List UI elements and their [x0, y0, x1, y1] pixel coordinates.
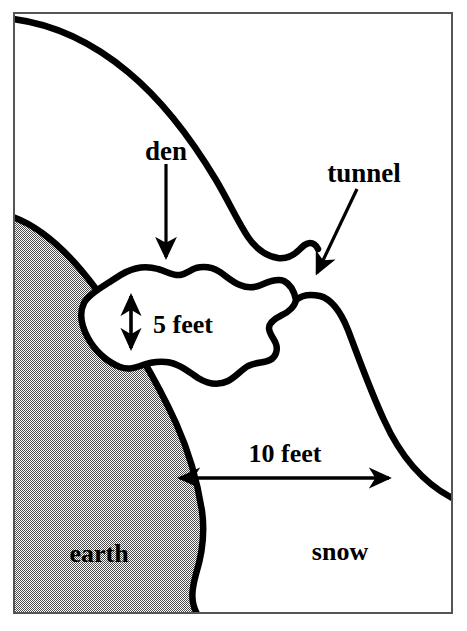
scene-contents: den tunnel 5 feet 10 feet earth snow: [13, 13, 452, 614]
tunnel-label: tunnel: [327, 158, 401, 188]
earth-label: earth: [69, 539, 129, 568]
diagram-canvas: den tunnel 5 feet 10 feet earth snow: [0, 0, 467, 631]
den-cross-section-illustration: den tunnel 5 feet 10 feet earth snow: [0, 0, 467, 631]
den-label: den: [145, 136, 187, 166]
snow-label: snow: [312, 537, 369, 566]
ten-feet-label: 10 feet: [249, 439, 322, 468]
five-feet-label: 5 feet: [153, 310, 213, 339]
